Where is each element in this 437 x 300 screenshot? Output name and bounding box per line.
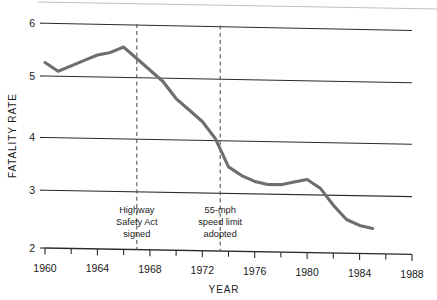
y-tick-label-4: 4 [29,131,35,143]
x-tick-label-1988: 1988 [400,268,424,280]
x-minor-tick-marks-group [71,249,386,260]
y-tick-label-3: 3 [29,184,35,196]
annotation-speed-limit-line3: adopted [204,229,237,239]
gridline-6 [45,23,412,30]
y-tick-label-5: 5 [29,70,35,82]
y-tick-label-6: 6 [29,17,35,29]
x-tick-label-1968: 1968 [138,263,162,275]
fatality-rate-series-line [45,47,373,228]
x-tick-label-1980: 1980 [295,266,319,278]
gridline-5 [45,76,412,83]
x-tick-label-1964: 1964 [86,262,110,274]
x-tick-label-1984: 1984 [348,267,372,279]
x-tick-label-1960: 1960 [33,262,57,274]
gridline-4 [45,138,412,145]
annotation-highway-safety-act-line3: signed [123,229,150,239]
scan-artifact-line [38,2,437,9]
x-axis-title: YEAR [209,284,240,295]
x-tick-label-1976: 1976 [243,265,267,277]
annotation-highway-safety-act-line2: Safety Act [116,217,158,227]
annotation-speed-limit-line2: speed limit [198,217,242,227]
y-axis-title: FATALITY RATE [7,93,18,178]
y-tick-label-2: 2 [29,242,35,254]
gridlines-group [45,23,412,196]
annotation-highway-safety-act-line1: Highway [119,205,155,215]
fatality-rate-line-chart: 6 5 4 3 2 FATALITY RATE 196 [0,0,437,300]
chart-page: 6 5 4 3 2 FATALITY RATE 196 [0,0,437,300]
gridline-3 [45,190,412,196]
annotation-speed-limit-line1: 55-mph [205,205,236,215]
y-tick-marks-group [40,23,45,248]
x-tick-label-1972: 1972 [191,264,215,276]
